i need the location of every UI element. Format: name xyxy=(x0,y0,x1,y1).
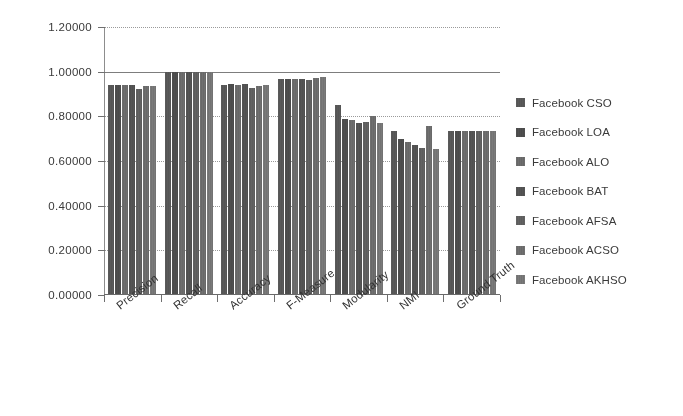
legend-item-label: Facebook LOA xyxy=(532,126,610,138)
bar[interactable] xyxy=(462,131,468,295)
legend-item-label: Facebook ALO xyxy=(532,156,609,168)
bar[interactable] xyxy=(150,86,156,295)
bar-group xyxy=(104,27,161,295)
bar[interactable] xyxy=(186,72,192,295)
x-axis-tick-mark xyxy=(443,295,444,302)
bar[interactable] xyxy=(129,85,135,295)
bar[interactable] xyxy=(193,72,199,295)
x-axis-tick-mark xyxy=(387,295,388,302)
legend-swatch-icon xyxy=(516,246,525,255)
legend-item-label: Facebook CSO xyxy=(532,97,612,109)
bar[interactable] xyxy=(320,77,326,295)
y-axis-tick-labels: 0.000000.200000.400000.600000.800001.000… xyxy=(8,0,92,416)
bar[interactable] xyxy=(179,72,185,295)
bar[interactable] xyxy=(136,89,142,295)
legend-swatch-icon xyxy=(516,275,525,284)
legend-item[interactable]: Facebook CSO xyxy=(516,88,683,118)
bar[interactable] xyxy=(278,79,284,295)
bar[interactable] xyxy=(242,84,248,295)
bar-group xyxy=(217,27,274,295)
bar[interactable] xyxy=(256,86,262,295)
y-axis-tick-mark xyxy=(98,27,105,28)
bar[interactable] xyxy=(335,105,341,295)
bar[interactable] xyxy=(299,79,305,295)
bar[interactable] xyxy=(363,122,369,295)
legend-item[interactable]: Facebook LOA xyxy=(516,118,683,148)
y-axis-tick-label: 0.60000 xyxy=(48,155,92,167)
bar[interactable] xyxy=(398,139,404,295)
legend-swatch-icon xyxy=(516,98,525,107)
bar[interactable] xyxy=(108,85,114,295)
bar-group xyxy=(443,27,500,295)
bar[interactable] xyxy=(412,145,418,295)
legend-swatch-icon xyxy=(516,128,525,137)
bar[interactable] xyxy=(356,123,362,295)
bar[interactable] xyxy=(426,126,432,295)
bar[interactable] xyxy=(476,131,482,295)
y-axis-tick-label: 1.20000 xyxy=(48,21,92,33)
bar[interactable] xyxy=(419,148,425,295)
bar[interactable] xyxy=(165,72,171,295)
x-axis-tick-mark xyxy=(330,295,331,302)
y-axis-tick-mark xyxy=(98,206,105,207)
bar[interactable] xyxy=(306,80,312,295)
legend-item[interactable]: Facebook ALO xyxy=(516,147,683,177)
legend-item-label: Facebook AKHSO xyxy=(532,274,627,286)
plot-area xyxy=(104,27,500,295)
bar[interactable] xyxy=(221,85,227,295)
x-axis-tick-mark xyxy=(104,295,105,302)
x-axis-tick-mark xyxy=(217,295,218,302)
y-axis-tick-mark xyxy=(98,72,105,73)
legend-item[interactable]: Facebook ACSO xyxy=(516,236,683,266)
bar-group xyxy=(274,27,331,295)
bar[interactable] xyxy=(313,78,319,295)
y-axis-tick-label: 0.40000 xyxy=(48,200,92,212)
bar[interactable] xyxy=(235,85,241,295)
legend-item-label: Facebook AFSA xyxy=(532,215,616,227)
legend-item-label: Facebook ACSO xyxy=(532,244,619,256)
y-axis-tick-mark xyxy=(98,116,105,117)
legend-item-label: Facebook BAT xyxy=(532,185,608,197)
y-axis-tick-label: 1.00000 xyxy=(48,66,92,78)
y-axis-tick-label: 0.00000 xyxy=(48,289,92,301)
bar[interactable] xyxy=(263,85,269,295)
bar[interactable] xyxy=(172,72,178,295)
legend-item[interactable]: Facebook BAT xyxy=(516,177,683,207)
x-axis-tick-mark xyxy=(500,295,501,302)
bar[interactable] xyxy=(483,131,489,295)
bar-group xyxy=(161,27,218,295)
legend-item[interactable]: Facebook AFSA xyxy=(516,206,683,236)
y-axis-tick-mark xyxy=(98,161,105,162)
x-axis-tick-mark xyxy=(274,295,275,302)
bar-group xyxy=(330,27,387,295)
plot-area-wrapper: 0.000000.200000.400000.600000.800001.000… xyxy=(0,0,510,416)
x-axis-tick-mark xyxy=(161,295,162,302)
bar[interactable] xyxy=(469,131,475,295)
bar[interactable] xyxy=(433,149,439,295)
bar[interactable] xyxy=(285,79,291,295)
bar[interactable] xyxy=(405,142,411,295)
bar[interactable] xyxy=(342,119,348,295)
legend-swatch-icon xyxy=(516,157,525,166)
legend: Facebook CSOFacebook LOAFacebook ALOFace… xyxy=(516,88,683,295)
bar[interactable] xyxy=(249,88,255,295)
bar[interactable] xyxy=(455,131,461,295)
bar[interactable] xyxy=(122,85,128,295)
bar[interactable] xyxy=(448,131,454,295)
bar[interactable] xyxy=(349,120,355,295)
legend-swatch-icon xyxy=(516,216,525,225)
bar[interactable] xyxy=(143,86,149,295)
legend-item[interactable]: Facebook AKHSO xyxy=(516,265,683,295)
legend-swatch-icon xyxy=(516,187,525,196)
bar-group xyxy=(387,27,444,295)
bar[interactable] xyxy=(228,84,234,295)
y-axis-tick-label: 0.80000 xyxy=(48,110,92,122)
bar[interactable] xyxy=(391,131,397,295)
bar[interactable] xyxy=(115,85,121,295)
bar[interactable] xyxy=(200,72,206,295)
y-axis-tick-mark xyxy=(98,250,105,251)
bar[interactable] xyxy=(292,79,298,295)
x-axis-category-labels: PrecisionRecallAccuracyF-MeasureModulari… xyxy=(104,302,500,412)
bar[interactable] xyxy=(207,72,213,295)
bar[interactable] xyxy=(370,116,376,295)
